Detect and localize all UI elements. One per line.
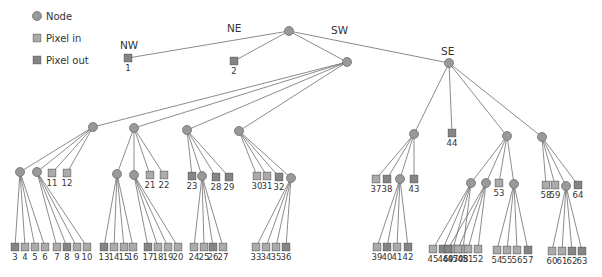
leaf-label: 23 [187, 181, 198, 191]
tree-edge [67, 127, 93, 173]
tree-edge [414, 63, 449, 134]
leaf-label: 32 [274, 182, 285, 192]
tree-edge [134, 128, 150, 175]
tree-edge [289, 31, 449, 63]
pixel-out-square-icon [124, 54, 132, 62]
pixel-out-square-icon [188, 172, 196, 180]
leaf-label: 29 [224, 182, 235, 192]
pixel-in-square-icon [219, 243, 227, 251]
pixel-in-square-icon [253, 172, 261, 180]
pixel-in-square-icon [503, 246, 511, 254]
legend-pixel-in-icon [33, 34, 41, 42]
leaf-label: 37 [371, 184, 382, 194]
tree-nodes [16, 27, 571, 191]
pixel-out-square-icon [63, 243, 71, 251]
pixel-in-square-icon [558, 247, 566, 255]
tree-edge [117, 174, 133, 247]
tree-edge [449, 63, 507, 136]
tree-edge [93, 62, 347, 127]
pixel-out-square-icon [209, 243, 217, 251]
leaf-label: 22 [159, 180, 170, 190]
leaf-label: 64 [573, 190, 584, 200]
pixel-out-square-icon [568, 247, 576, 255]
quadrant-label: SE [441, 45, 454, 57]
legend: NodePixel inPixel out [33, 11, 89, 66]
leaf-label: 44 [447, 138, 458, 148]
node-circle-icon [287, 174, 296, 183]
node-circle-icon [445, 59, 454, 68]
legend-node-icon [33, 12, 42, 21]
tree-edge [239, 62, 347, 131]
pixel-in-square-icon [110, 243, 118, 251]
leaf-label: 6 [42, 252, 47, 262]
pixel-in-square-icon [21, 243, 29, 251]
tree-edge [499, 136, 507, 183]
tree-edge [400, 179, 408, 247]
tree-edge [400, 134, 414, 179]
pixel-out-square-icon [282, 243, 290, 251]
pixel-out-square-icon [275, 173, 283, 181]
tree-edge [117, 128, 134, 174]
leaf-label: 20 [173, 252, 184, 262]
leaf-label: 36 [281, 252, 292, 262]
leaf-label: 12 [62, 178, 73, 188]
pixel-out-square-icon [212, 173, 220, 181]
legend-pixel-out-icon [33, 56, 41, 64]
pixel-out-square-icon [144, 243, 152, 251]
tree-edge [376, 134, 414, 179]
node-circle-icon [503, 132, 512, 141]
pixel-in-square-icon [200, 243, 208, 251]
tree-edge [542, 137, 578, 185]
node-circle-icon [285, 27, 294, 36]
tree-edge [52, 127, 93, 173]
pixel-in-square-icon [372, 175, 380, 183]
node-circle-icon [130, 124, 139, 133]
pixel-in-square-icon [429, 245, 437, 253]
leaf-label: 53 [494, 188, 505, 198]
tree-edge [507, 184, 514, 250]
tree-edge [449, 63, 542, 137]
node-circle-icon [467, 179, 476, 188]
node-circle-icon [198, 172, 207, 181]
leaf-label: 28 [211, 182, 222, 192]
pixel-in-square-icon [263, 172, 271, 180]
node-circle-icon [33, 168, 42, 177]
tree-edge [134, 128, 164, 175]
leaf-label: 42 [403, 252, 414, 262]
node-circle-icon [343, 58, 352, 67]
tree-edge [433, 183, 471, 249]
node-circle-icon [538, 133, 547, 142]
quadrant-label: NW [120, 39, 139, 51]
node-circle-icon [113, 170, 122, 179]
tree-edge [507, 136, 514, 184]
tree-edge [134, 62, 347, 128]
leaf-label: 11 [47, 178, 58, 188]
pixel-out-square-icon [225, 173, 233, 181]
pixel-in-square-icon [164, 243, 172, 251]
pixel-in-square-icon [551, 181, 559, 189]
pixel-in-square-icon [495, 179, 503, 187]
pixel-in-square-icon [464, 245, 472, 253]
leaf-label: 41 [392, 252, 403, 262]
tree-edge [239, 131, 279, 177]
node-circle-icon [482, 179, 491, 188]
pixel-in-square-icon [31, 243, 39, 251]
tree-edge [114, 174, 117, 247]
node-circle-icon [410, 130, 419, 139]
pixel-out-square-icon [574, 181, 582, 189]
node-circle-icon [16, 168, 25, 177]
node-circle-icon [235, 127, 244, 136]
leaf-label: 10 [82, 252, 93, 262]
node-circle-icon [130, 171, 139, 180]
pixel-out-square-icon [444, 245, 452, 253]
pixel-in-square-icon [83, 243, 91, 251]
node-circle-icon [510, 180, 519, 189]
node-circle-icon [183, 126, 192, 135]
pixel-in-square-icon [493, 246, 501, 254]
leaf-label: 4 [22, 252, 27, 262]
node-circle-icon [396, 175, 405, 184]
pixel-out-square-icon [578, 247, 586, 255]
pixel-in-square-icon [146, 171, 154, 179]
tree-edge [239, 131, 267, 176]
quadtree-diagram: NodePixel inPixel out NWNESWSE 123456789… [0, 0, 602, 277]
